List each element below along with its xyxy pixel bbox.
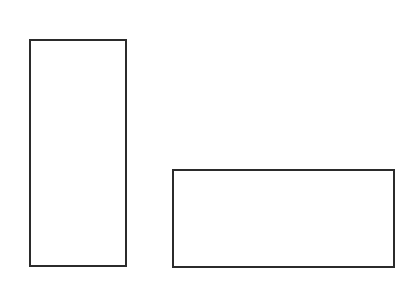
wide-rectangle (173, 170, 394, 267)
diagram-canvas (0, 0, 409, 291)
tall-rectangle (30, 40, 126, 266)
